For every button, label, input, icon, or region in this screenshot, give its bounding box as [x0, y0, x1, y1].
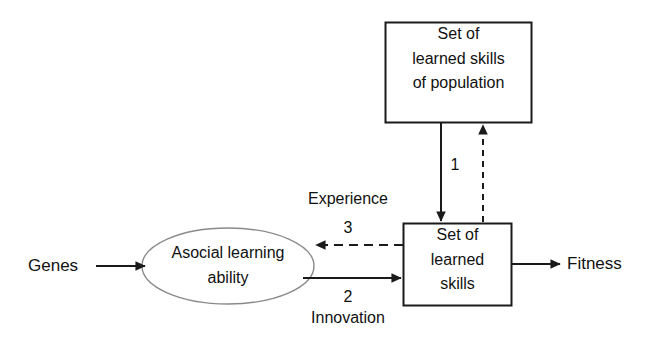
- node-fitness-label: Fitness: [567, 254, 622, 274]
- diagram-graphics-layer: [0, 0, 659, 339]
- node-population-skills-box: [386, 23, 532, 123]
- diagram-canvas: Set of learned skills of population Asoc…: [0, 0, 659, 339]
- node-genes-label: Genes: [28, 256, 78, 276]
- node-asocial-learning-ellipse: [142, 228, 314, 304]
- node-learned-skills-box: [404, 224, 512, 306]
